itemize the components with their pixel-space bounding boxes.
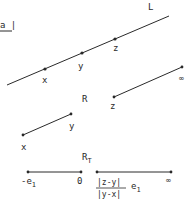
left-segment-end-dot bbox=[80, 171, 83, 174]
e1-label: e1 bbox=[131, 181, 141, 194]
segment-xy: y x bbox=[21, 113, 75, 152]
fragment-text: a | bbox=[0, 20, 16, 30]
ray-R-start-dot bbox=[113, 96, 116, 99]
point-y-dot bbox=[80, 51, 83, 54]
line-L: L x y z bbox=[7, 2, 169, 85]
cropped-fragment: a | bbox=[0, 20, 16, 31]
segment-xy-stroke bbox=[23, 114, 71, 135]
segment-x-label: x bbox=[21, 142, 27, 152]
line-L-stroke bbox=[7, 16, 169, 85]
point-y-label: y bbox=[78, 61, 84, 71]
point-z-label: z bbox=[113, 43, 118, 53]
fraction-denominator: |y-x| bbox=[97, 190, 121, 199]
point-z-dot bbox=[113, 37, 116, 40]
segment-x-dot bbox=[22, 134, 25, 137]
ray-R-end-label: ∞ bbox=[179, 74, 184, 83]
ray-RT: RT -e1 0 |z-y| |y-x| e1 ∞ bbox=[21, 152, 172, 199]
ray-R-label: R bbox=[82, 94, 88, 104]
segment-y-dot bbox=[70, 113, 73, 116]
point-x-dot bbox=[43, 67, 46, 70]
diagram-canvas: a | L x y z R z ∞ y x RT -e1 0 bbox=[0, 0, 187, 212]
ray-R-stroke bbox=[114, 67, 182, 97]
neg-e1-label: -e1 bbox=[21, 176, 36, 189]
line-L-label: L bbox=[148, 2, 153, 12]
segment-y-label: y bbox=[69, 121, 75, 131]
right-segment-start-dot bbox=[96, 171, 99, 174]
ray-R: R z ∞ bbox=[82, 66, 184, 111]
zero-label: 0 bbox=[77, 176, 82, 186]
ray-R-start-label: z bbox=[110, 101, 115, 111]
infinity-label: ∞ bbox=[166, 176, 171, 185]
ray-RT-label: RT bbox=[82, 152, 92, 165]
ray-R-end-dot bbox=[181, 66, 184, 69]
right-segment-end-dot bbox=[170, 171, 173, 174]
point-x-label: x bbox=[42, 75, 48, 85]
fraction-numerator: |z-y| bbox=[97, 178, 121, 187]
left-segment-start-dot bbox=[27, 171, 30, 174]
